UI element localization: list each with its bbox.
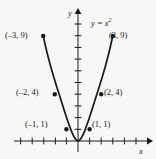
- equation-base: y = x: [91, 18, 109, 28]
- x-axis-arrowhead: [147, 138, 153, 145]
- point-marker: [99, 92, 103, 96]
- y-axis-label: y: [68, 9, 72, 18]
- x-axis-label: x: [139, 147, 143, 156]
- point-label-neg1-1: (–1, 1): [25, 120, 48, 129]
- point-marker: [53, 92, 57, 96]
- equation-label: y = x2: [91, 19, 112, 28]
- equation-exponent: 2: [109, 17, 112, 23]
- point-label-1-1: (1, 1): [92, 120, 110, 129]
- parabola-figure: y x y = x2 (–3, 9) (–2, 4) (–1, 1) (1, 1…: [0, 0, 156, 159]
- point-label-neg3-9: (–3, 9): [5, 31, 28, 40]
- point-label-2-4: (2, 4): [104, 88, 122, 97]
- point-marker: [64, 127, 68, 131]
- point-marker: [41, 34, 45, 38]
- point-label-neg2-4: (–2, 4): [16, 88, 39, 97]
- y-axis-arrowhead: [75, 8, 82, 14]
- point-label-3-9: (3, 9): [109, 31, 127, 40]
- graph-canvas: [0, 0, 156, 159]
